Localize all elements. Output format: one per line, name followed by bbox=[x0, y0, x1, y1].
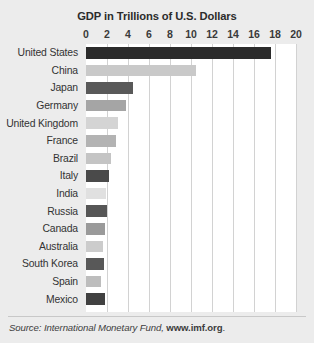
y-axis-label-row: United Kingdom bbox=[0, 114, 82, 132]
bar-row bbox=[86, 44, 296, 62]
x-tick-label-12: 12 bbox=[206, 28, 218, 40]
category-label: United States bbox=[18, 47, 78, 58]
x-tick-label-6: 6 bbox=[146, 28, 152, 40]
y-axis-category-labels: United StatesChinaJapanGermanyUnited Kin… bbox=[0, 44, 82, 312]
category-label: Germany bbox=[36, 100, 78, 111]
bar-row bbox=[86, 79, 296, 97]
bar bbox=[86, 153, 111, 165]
category-label: Japan bbox=[50, 82, 78, 93]
gdp-bar-chart-card: GDP in Trillions of U.S. Dollars 0246810… bbox=[0, 0, 314, 343]
source-url: www.imf.org bbox=[166, 322, 222, 333]
bar-row bbox=[86, 255, 296, 273]
bar-row bbox=[86, 97, 296, 115]
bar-row bbox=[86, 150, 296, 168]
plot-wrapper: 02468101214161820 United StatesChinaJapa… bbox=[0, 28, 314, 314]
x-tick-label-20: 20 bbox=[290, 28, 302, 40]
bar bbox=[86, 223, 105, 235]
bar-row bbox=[86, 62, 296, 80]
category-label: China bbox=[52, 65, 78, 76]
category-label: Australia bbox=[39, 241, 78, 252]
category-label: India bbox=[56, 188, 78, 199]
x-tick-label-18: 18 bbox=[269, 28, 281, 40]
category-label: South Korea bbox=[22, 258, 78, 269]
bar bbox=[86, 293, 105, 305]
bar-row bbox=[86, 273, 296, 291]
x-tick-label-16: 16 bbox=[248, 28, 260, 40]
category-label: Brazil bbox=[53, 153, 78, 164]
category-label: United Kingdom bbox=[6, 118, 78, 129]
x-tick-label-4: 4 bbox=[125, 28, 131, 40]
y-axis-label-row: China bbox=[0, 62, 82, 80]
bar bbox=[86, 258, 104, 270]
bar bbox=[86, 135, 116, 147]
source-label: Source: International Monetary Fund, bbox=[9, 322, 166, 333]
y-axis-label-row: India bbox=[0, 185, 82, 203]
y-axis-label-row: Brazil bbox=[0, 150, 82, 168]
bar bbox=[86, 100, 126, 112]
bar-row bbox=[86, 185, 296, 203]
bar-row bbox=[86, 132, 296, 150]
x-tick-label-8: 8 bbox=[167, 28, 173, 40]
bar bbox=[86, 170, 109, 182]
x-tick-label-0: 0 bbox=[83, 28, 89, 40]
y-axis-label-row: Japan bbox=[0, 79, 82, 97]
bar-row bbox=[86, 220, 296, 238]
category-label: Italy bbox=[60, 170, 78, 181]
bar bbox=[86, 47, 271, 59]
y-axis-label-row: South Korea bbox=[0, 255, 82, 273]
bar bbox=[86, 276, 101, 288]
y-axis-label-row: Germany bbox=[0, 97, 82, 115]
bar bbox=[86, 188, 106, 200]
footer-divider bbox=[8, 316, 306, 317]
bar bbox=[86, 241, 103, 253]
category-label: Russia bbox=[47, 206, 78, 217]
gridline-20 bbox=[296, 44, 297, 312]
y-axis-label-row: Spain bbox=[0, 273, 82, 291]
category-label: Mexico bbox=[46, 294, 78, 305]
bar-row bbox=[86, 114, 296, 132]
bar bbox=[86, 65, 196, 77]
bar-row bbox=[86, 202, 296, 220]
y-axis-label-row: France bbox=[0, 132, 82, 150]
bar bbox=[86, 82, 133, 94]
y-axis-label-row: Russia bbox=[0, 202, 82, 220]
x-tick-label-10: 10 bbox=[185, 28, 197, 40]
category-label: Canada bbox=[43, 223, 79, 234]
bar-row bbox=[86, 238, 296, 256]
y-axis-label-row: Mexico bbox=[0, 290, 82, 308]
category-label: France bbox=[47, 135, 78, 146]
bar-rows bbox=[86, 44, 296, 312]
x-axis-tick-labels: 02468101214161820 bbox=[0, 28, 314, 44]
bar-row bbox=[86, 290, 296, 308]
bar-row bbox=[86, 167, 296, 185]
bar bbox=[86, 117, 118, 129]
y-axis-label-row: Canada bbox=[0, 220, 82, 238]
bar bbox=[86, 205, 107, 217]
x-tick-label-14: 14 bbox=[227, 28, 239, 40]
y-axis-label-row: Italy bbox=[0, 167, 82, 185]
x-tick-label-2: 2 bbox=[104, 28, 110, 40]
chart-title: GDP in Trillions of U.S. Dollars bbox=[0, 10, 314, 22]
y-axis-label-row: United States bbox=[0, 44, 82, 62]
source-trailing-period: . bbox=[222, 322, 225, 333]
y-axis-label-row: Australia bbox=[0, 238, 82, 256]
plot-area bbox=[86, 44, 297, 312]
category-label: Spain bbox=[52, 276, 78, 287]
source-note: Source: International Monetary Fund, www… bbox=[9, 322, 309, 333]
